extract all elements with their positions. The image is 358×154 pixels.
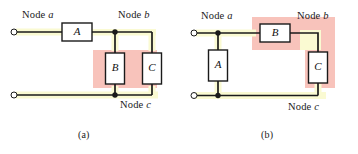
panel-a-component-A-label: A xyxy=(62,25,92,37)
circuit-figure: Node a Node b Node c A B C (a) Node a No… xyxy=(0,0,358,154)
panel-a-component-B-label: B xyxy=(105,61,125,73)
panel-b-junction-node-a xyxy=(215,30,220,35)
panel-b-node-c-label: Node c xyxy=(288,101,319,112)
panel-a-node-b-label: Node b xyxy=(118,9,150,20)
panel-b-node-c-text: Node c xyxy=(288,101,319,112)
panel-b-junction-node-c xyxy=(215,93,220,98)
panel-b-terminal-bottom xyxy=(191,93,197,99)
panel-b-component-C-label: C xyxy=(308,60,328,72)
panel-b-caption: (b) xyxy=(261,129,273,140)
panel-b-node-b-label: Node b xyxy=(297,10,329,21)
panel-a-node-a-text: Node a xyxy=(22,9,54,20)
panel-a-junction-node-c xyxy=(112,92,117,97)
panel-b-component-B-label: B xyxy=(260,26,290,38)
panel-b-node-a-label: Node a xyxy=(201,10,233,21)
panel-b-component-A-label: A xyxy=(208,58,228,70)
panel-a-caption: (a) xyxy=(78,129,90,140)
panel-b-node-a-text: Node a xyxy=(201,10,233,21)
panel-a-node-a-label: Node a xyxy=(22,9,54,20)
panel-a-node-b-text: Node b xyxy=(118,9,150,20)
panel-a-terminal-bottom xyxy=(11,92,17,98)
panel-a-terminal-top xyxy=(11,29,17,35)
panel-a-component-C-label: C xyxy=(142,61,162,73)
panel-a-junction-node-b xyxy=(112,29,117,34)
circuit-diagram-svg xyxy=(0,0,358,154)
panel-b-terminal-top xyxy=(191,30,197,36)
panel-b-node-b-text: Node b xyxy=(297,10,329,21)
panel-a-node-c-label: Node c xyxy=(120,99,151,110)
panel-a-node-c-text: Node c xyxy=(120,99,151,110)
